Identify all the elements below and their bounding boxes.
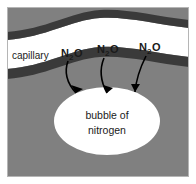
- gas-label-1-o: O: [74, 47, 83, 59]
- gas-label-2-n: N: [97, 43, 105, 55]
- bubble-label-line1: bubble of: [85, 109, 128, 121]
- diagram-canvas: capillary N 2 O N 2 O N 2 O bubble of ni…: [0, 0, 196, 184]
- gas-label-2-o: O: [110, 43, 119, 55]
- nitrogen-bubble: [54, 87, 160, 155]
- capillary-nitrogen-bubble-figure: capillary N 2 O N 2 O N 2 O bubble of ni…: [0, 0, 196, 184]
- gas-label-3-n: N: [139, 41, 147, 53]
- bubble-label-line2: nitrogen: [88, 124, 126, 136]
- gas-label-3-o: O: [152, 41, 161, 53]
- capillary-label: capillary: [12, 50, 49, 61]
- gas-label-1-n: N: [61, 47, 69, 59]
